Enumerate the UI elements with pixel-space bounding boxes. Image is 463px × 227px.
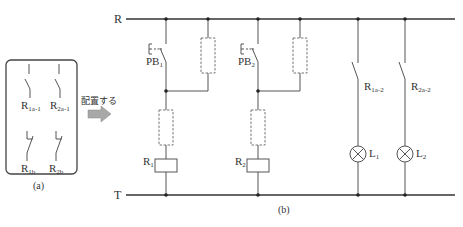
- contact-no-r2a1-icon: [55, 64, 60, 98]
- label-l1: L1: [369, 148, 379, 161]
- arrow-right-icon: [88, 106, 111, 122]
- rail-r-label: R: [114, 13, 122, 25]
- label-r1a1: R1a-1: [21, 100, 41, 113]
- circuit-diagram: [0, 0, 463, 227]
- label-r1b: R1b: [21, 163, 35, 176]
- caption-a: (a): [33, 181, 44, 191]
- contact-nc-r1b-icon: [27, 131, 33, 161]
- rail-t-label: T: [114, 189, 121, 201]
- label-r1a2: R1a-2: [364, 81, 384, 94]
- label-l2: L2: [416, 148, 426, 161]
- label-pb1: PB1: [146, 56, 163, 69]
- label-r2: R2: [235, 156, 246, 169]
- label-r1: R1: [143, 156, 154, 169]
- label-r2b: R2b: [49, 163, 63, 176]
- dashed-placeholder-2-bottom: [251, 110, 265, 145]
- arrow-label: 配置する: [81, 94, 117, 107]
- lamp-l1-icon: [350, 146, 366, 162]
- label-r2a1: R2a-1: [50, 100, 70, 113]
- lamp-l2-icon: [397, 146, 413, 162]
- label-pb2: PB2: [238, 56, 255, 69]
- relay-coil-r1-icon: [155, 159, 177, 172]
- junction-dots: [164, 17, 407, 197]
- contact-no-r1a1-icon: [25, 64, 30, 98]
- label-r2a2: R2a-2: [411, 81, 431, 94]
- caption-b: (b): [278, 205, 290, 215]
- contact-nc-r2b-icon: [56, 131, 62, 161]
- contact-palette-box: [6, 60, 77, 174]
- relay-coil-r2-icon: [247, 159, 269, 172]
- lamp-branch-1: [352, 19, 358, 195]
- dashed-placeholder-2-top: [293, 38, 307, 73]
- dashed-placeholder-1-top: [201, 38, 215, 73]
- dashed-placeholder-1-bottom: [159, 110, 173, 145]
- lamp-branch-2: [399, 19, 405, 195]
